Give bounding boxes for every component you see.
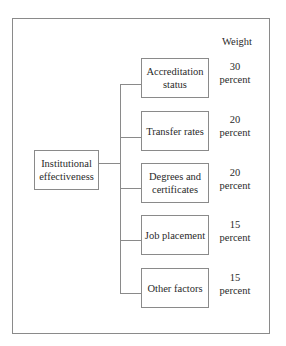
child-node-accreditation: Accreditation status (141, 58, 209, 98)
weight-value: 30 (210, 60, 260, 73)
branch-connector-5 (120, 293, 141, 294)
child-node-transfer-rates: Transfer rates (141, 111, 209, 151)
branch-connector-3 (120, 188, 141, 189)
root-connector (99, 163, 120, 164)
weight-unit: percent (210, 284, 260, 297)
child-node-degrees: Degrees and certificates (141, 163, 209, 203)
weight-column-header: Weight (212, 36, 262, 47)
weight-label-5: 15 percent (210, 271, 260, 297)
child-node-job-placement: Job placement (141, 215, 209, 255)
weight-unit: percent (210, 179, 260, 192)
weight-value: 15 (210, 271, 260, 284)
root-node-box: Institutional effectiveness (34, 150, 99, 190)
child-node-other-factors: Other factors (141, 268, 209, 308)
branch-connector-4 (120, 240, 141, 241)
child-node-label: Job placement (145, 229, 205, 242)
weight-label-4: 15 percent (210, 218, 260, 244)
branch-spine (120, 84, 121, 294)
weight-value: 15 (210, 218, 260, 231)
weight-label-3: 20 percent (210, 166, 260, 192)
branch-connector-2 (120, 137, 141, 138)
weight-unit: percent (210, 73, 260, 86)
weight-value: 20 (210, 166, 260, 179)
weight-label-2: 20 percent (210, 113, 260, 139)
weight-unit: percent (210, 126, 260, 139)
branch-connector-1 (120, 84, 141, 85)
child-node-label: Accreditation status (142, 65, 208, 91)
child-node-label: Degrees and certificates (142, 170, 208, 196)
child-node-label: Transfer rates (146, 125, 204, 138)
child-node-label: Other factors (147, 282, 202, 295)
weight-unit: percent (210, 231, 260, 244)
weight-label-1: 30 percent (210, 60, 260, 86)
weight-value: 20 (210, 113, 260, 126)
root-node-label: Institutional effectiveness (35, 157, 98, 183)
